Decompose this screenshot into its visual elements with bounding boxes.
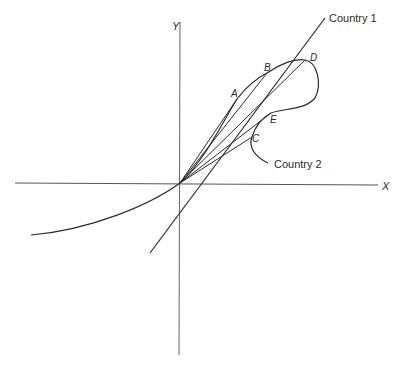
point-c-label: C	[252, 133, 259, 145]
x-axis	[15, 183, 378, 185]
ray-to-b	[180, 73, 267, 183]
point-d-label: D	[310, 52, 317, 64]
point-e-label: E	[270, 114, 277, 126]
country1-curve	[150, 18, 325, 253]
x-axis-label: X	[382, 180, 389, 192]
ray-to-e	[180, 113, 271, 183]
trade-curves-diagram: Y X Country 1 Country 2 A B D E C	[0, 0, 409, 366]
ray-to-a	[180, 99, 237, 183]
y-axis	[179, 22, 180, 355]
y-axis-label: Y	[172, 20, 179, 32]
point-a-label: A	[231, 88, 238, 100]
country1-label: Country 1	[329, 12, 377, 24]
ray-to-c	[180, 137, 252, 183]
point-b-label: B	[264, 62, 271, 74]
diagram-svg	[0, 0, 409, 366]
country2-curve	[31, 60, 318, 235]
country2-label: Country 2	[274, 158, 322, 170]
